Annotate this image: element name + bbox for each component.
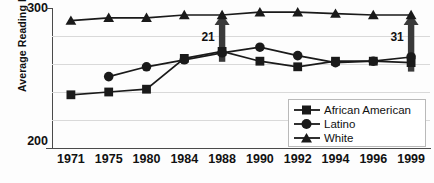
data-point-marker: [180, 55, 190, 65]
data-point-marker: [104, 88, 113, 97]
circle-marker-icon: [293, 117, 321, 131]
series-white: [66, 7, 417, 25]
chart-legend: African American Latino White: [288, 99, 426, 147]
data-point-marker: [331, 58, 341, 68]
legend-item-white: White: [293, 131, 421, 145]
data-point-marker: [293, 62, 302, 71]
legend-item-latino: Latino: [293, 117, 421, 131]
chart-figure: Average Reading NAEP Score 300 200 Afric…: [0, 0, 434, 183]
data-point-marker: [255, 42, 265, 52]
data-point-marker: [256, 57, 265, 66]
data-point-marker: [369, 56, 379, 66]
square-marker-icon: [293, 103, 321, 117]
data-point-marker: [217, 48, 227, 58]
gap-annotation-label: 21: [193, 30, 223, 44]
x-tick-label: 1999: [389, 152, 433, 166]
legend-item-african-american: African American: [293, 103, 421, 117]
data-point-marker: [104, 72, 114, 82]
data-point-marker: [67, 90, 76, 99]
data-point-marker: [406, 52, 416, 62]
legend-label: White: [321, 132, 353, 144]
legend-label: Latino: [321, 118, 355, 130]
triangle-marker-icon: [293, 131, 321, 145]
legend-label: African American: [321, 104, 411, 116]
data-point-marker: [142, 85, 151, 94]
data-point-marker: [293, 51, 303, 61]
gap-annotation-label: 31: [382, 30, 412, 44]
data-point-marker: [142, 62, 152, 72]
